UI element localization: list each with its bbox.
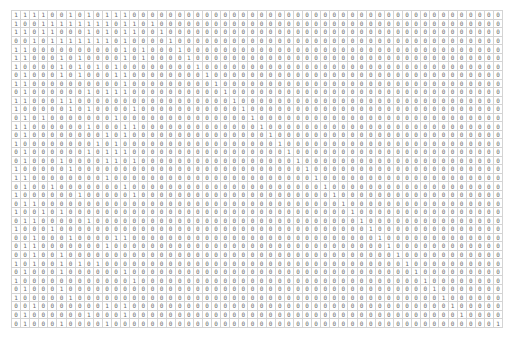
table-cell: 0 <box>221 165 230 174</box>
table-cell: 1 <box>30 302 39 311</box>
table-cell: 0 <box>239 79 248 88</box>
table-cell: 0 <box>457 182 466 191</box>
table-cell: 0 <box>330 216 339 225</box>
table-cell: 0 <box>375 182 384 191</box>
table-cell: 0 <box>202 233 211 242</box>
table-cell: 0 <box>284 310 293 319</box>
table-cell: 1 <box>384 242 393 251</box>
table-cell: 0 <box>75 28 84 37</box>
table-cell: 0 <box>230 225 239 234</box>
table-cell: 0 <box>139 259 148 268</box>
table-cell: 0 <box>48 233 57 242</box>
table-cell: 0 <box>321 267 330 276</box>
table-cell: 0 <box>202 113 211 122</box>
table-cell: 0 <box>357 11 366 20</box>
table-cell: 0 <box>366 310 375 319</box>
table-cell: 0 <box>193 310 202 319</box>
table-cell: 0 <box>39 96 48 105</box>
table-cell: 0 <box>221 96 230 105</box>
table-cell: 0 <box>48 96 57 105</box>
table-cell: 1 <box>57 70 66 79</box>
table-cell: 0 <box>284 199 293 208</box>
table-cell: 0 <box>184 139 193 148</box>
table-cell: 0 <box>184 233 193 242</box>
table-cell: 0 <box>230 36 239 45</box>
table-cell: 0 <box>175 293 184 302</box>
table-cell: 0 <box>148 276 157 285</box>
table-cell: 0 <box>157 11 166 20</box>
table-cell: 0 <box>112 182 121 191</box>
table-cell: 0 <box>121 139 130 148</box>
table-cell: 1 <box>275 139 284 148</box>
table-cell: 0 <box>93 156 102 165</box>
table-cell: 0 <box>293 285 302 294</box>
table-cell: 0 <box>466 11 475 20</box>
table-cell: 0 <box>457 79 466 88</box>
table-cell: 0 <box>66 45 75 54</box>
table-cell: 0 <box>202 79 211 88</box>
table-cell: 0 <box>466 276 475 285</box>
table-cell: 0 <box>303 36 312 45</box>
table-cell: 0 <box>221 45 230 54</box>
table-cell: 0 <box>121 156 130 165</box>
table-cell: 0 <box>257 319 266 328</box>
table-cell: 0 <box>193 207 202 216</box>
binary-data-table: 1111001010111000000000000000000000000000… <box>11 10 503 328</box>
table-cell: 0 <box>266 156 275 165</box>
table-cell: 0 <box>102 216 111 225</box>
table-cell: 0 <box>321 242 330 251</box>
table-cell: 0 <box>221 190 230 199</box>
table-row: 0100000010001000000000000000000000000000… <box>12 310 503 319</box>
table-cell: 0 <box>348 105 357 114</box>
table-cell: 0 <box>493 36 502 45</box>
table-cell: 1 <box>21 70 30 79</box>
table-cell: 0 <box>130 148 139 157</box>
table-cell: 0 <box>184 45 193 54</box>
table-cell: 0 <box>221 250 230 259</box>
table-cell: 0 <box>403 250 412 259</box>
table-cell: 0 <box>284 216 293 225</box>
table-cell: 0 <box>439 19 448 28</box>
table-cell: 0 <box>457 285 466 294</box>
table-cell: 0 <box>457 293 466 302</box>
table-cell: 0 <box>175 259 184 268</box>
table-cell: 0 <box>148 302 157 311</box>
table-cell: 0 <box>484 156 493 165</box>
table-cell: 1 <box>21 285 30 294</box>
table-cell: 0 <box>102 285 111 294</box>
table-cell: 0 <box>75 11 84 20</box>
table-cell: 0 <box>248 96 257 105</box>
table-cell: 0 <box>412 53 421 62</box>
table-cell: 0 <box>66 242 75 251</box>
table-cell: 1 <box>130 156 139 165</box>
table-cell: 0 <box>239 113 248 122</box>
table-cell: 1 <box>102 130 111 139</box>
table-cell: 0 <box>139 216 148 225</box>
table-cell: 0 <box>57 105 66 114</box>
table-cell: 0 <box>303 45 312 54</box>
table-cell: 0 <box>75 267 84 276</box>
table-cell: 0 <box>93 53 102 62</box>
table-cell: 0 <box>475 113 484 122</box>
table-cell: 0 <box>366 130 375 139</box>
table-cell: 0 <box>48 70 57 79</box>
table-cell: 0 <box>57 233 66 242</box>
table-cell: 0 <box>303 216 312 225</box>
table-cell: 0 <box>184 302 193 311</box>
table-cell: 0 <box>357 105 366 114</box>
table-cell: 1 <box>93 259 102 268</box>
table-cell: 0 <box>312 319 321 328</box>
table-cell: 1 <box>112 62 121 71</box>
table-cell: 0 <box>303 11 312 20</box>
table-cell: 0 <box>157 96 166 105</box>
table-cell: 0 <box>475 148 484 157</box>
table-cell: 0 <box>475 276 484 285</box>
table-cell: 0 <box>21 139 30 148</box>
table-cell: 0 <box>130 70 139 79</box>
table-cell: 0 <box>257 259 266 268</box>
table-cell: 1 <box>121 36 130 45</box>
table-cell: 0 <box>166 62 175 71</box>
table-cell: 0 <box>430 310 439 319</box>
table-cell: 0 <box>430 267 439 276</box>
table-cell: 0 <box>393 267 402 276</box>
